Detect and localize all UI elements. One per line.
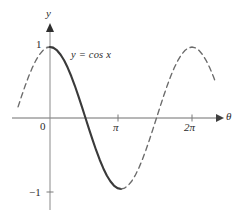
x-axis-arrowhead: [216, 114, 224, 122]
y-axis-label: y: [46, 8, 51, 19]
y-axis-arrowhead: [46, 23, 54, 32]
cosine-graph-figure: y θ 1 −1 0 π 2π y = cos x: [0, 0, 243, 219]
x-tick-label-two-pi: 2π: [184, 122, 195, 133]
origin-label: 0: [40, 121, 46, 132]
x-axis-label: θ: [226, 111, 231, 122]
cosine-curve-dashed-left: [18, 47, 50, 107]
y-axis: [46, 23, 54, 210]
y-tick-label-negative-one: −1: [29, 187, 41, 198]
equation-annotation: y = cos x: [71, 50, 111, 61]
x-tick-label-pi: π: [113, 122, 119, 133]
y-tick-label-one: 1: [36, 39, 42, 50]
